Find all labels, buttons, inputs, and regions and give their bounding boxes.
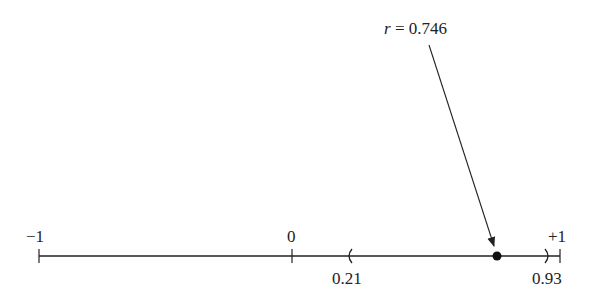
label-interval-upper: 0.93 bbox=[532, 270, 562, 287]
annotation-label: r = 0.746 bbox=[384, 20, 447, 37]
point-marker bbox=[493, 252, 502, 261]
label-zero: 0 bbox=[287, 228, 296, 245]
annotation-value: 0.746 bbox=[409, 19, 447, 38]
label-interval-lower: 0.21 bbox=[332, 270, 362, 287]
annotation-arrow bbox=[429, 45, 494, 246]
label-minus-one: −1 bbox=[26, 228, 44, 245]
annotation-equals: = bbox=[391, 19, 409, 38]
annotation-variable: r bbox=[384, 19, 391, 38]
number-line-diagram bbox=[0, 0, 599, 306]
label-plus-one: +1 bbox=[548, 228, 566, 245]
